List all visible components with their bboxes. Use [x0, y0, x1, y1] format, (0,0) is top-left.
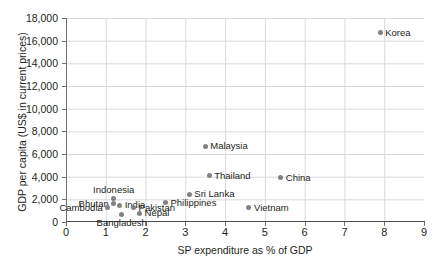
data-point-label: Indonesia [93, 185, 134, 195]
y-tick-label: 0 [0, 217, 58, 227]
x-tick-label: 6 [290, 226, 320, 238]
data-point [117, 203, 122, 208]
data-point [137, 211, 142, 216]
x-axis-title: SP expenditure as % of GDP [66, 244, 424, 256]
x-tick-mark [384, 222, 385, 226]
y-tick-label: 8,000 [0, 126, 58, 136]
y-tick-mark [62, 109, 66, 110]
x-tick-mark [305, 222, 306, 226]
y-tick-label: 4,000 [0, 172, 58, 182]
data-point [119, 212, 124, 217]
y-tick-mark [62, 177, 66, 178]
x-tick-mark [66, 222, 67, 226]
x-tick-mark [265, 222, 266, 226]
data-point-label: Philippines [170, 198, 216, 208]
x-tick-label: 0 [51, 226, 81, 238]
x-tick-mark [344, 222, 345, 226]
y-tick-mark [62, 41, 66, 42]
y-tick-mark [62, 154, 66, 155]
x-tick-mark [225, 222, 226, 226]
y-tick-mark [62, 131, 66, 132]
y-tick-label: 18,000 [0, 13, 58, 23]
y-axis-line [66, 18, 67, 222]
data-point [378, 30, 383, 35]
data-point [203, 144, 208, 149]
y-tick-label: 14,000 [0, 58, 58, 68]
data-point-label: China [286, 173, 311, 183]
data-point [207, 173, 212, 178]
y-tick-mark [62, 86, 66, 87]
x-tick-label: 4 [210, 226, 240, 238]
scatter-chart-figure: GDP per capita (US$ in current prices) 0… [0, 0, 437, 268]
y-tick-label: 10,000 [0, 104, 58, 114]
data-point-label: Korea [385, 28, 410, 38]
y-tick-label: 6,000 [0, 149, 58, 159]
data-point-label: Nepal [145, 208, 170, 218]
x-tick-mark [424, 222, 425, 226]
y-tick-mark [62, 18, 66, 19]
y-tick-mark [62, 63, 66, 64]
x-tick-label: 3 [170, 226, 200, 238]
x-tick-label: 5 [250, 226, 280, 238]
y-tick-label: 16,000 [0, 36, 58, 46]
x-tick-label: 9 [409, 226, 437, 238]
data-point-label: Malaysia [210, 141, 248, 151]
y-tick-label: 12,000 [0, 81, 58, 91]
data-point-label: Cambodia [59, 203, 102, 213]
x-tick-mark [185, 222, 186, 226]
data-point-label: Vietnam [254, 203, 289, 213]
y-tick-mark [62, 199, 66, 200]
x-tick-label: 7 [329, 226, 359, 238]
x-tick-label: 8 [369, 226, 399, 238]
data-point-label: Bangladesh [97, 218, 147, 228]
y-tick-label: 2,000 [0, 194, 58, 204]
data-point-label: Thailand [214, 171, 250, 181]
